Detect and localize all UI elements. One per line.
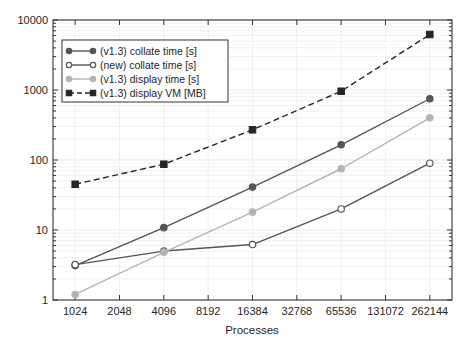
chart-legend: (v1.3) collate time [s](new) collate tim…: [62, 40, 228, 102]
legend-label: (v1.3) display time [s]: [100, 73, 199, 85]
data-point-marker: [66, 48, 71, 53]
data-point-marker: [90, 48, 95, 53]
data-point-marker: [338, 88, 344, 94]
x-tick-label: 16384: [237, 305, 268, 317]
data-point-marker: [66, 90, 71, 95]
y-tick-label: 100: [30, 154, 48, 166]
data-point-marker: [249, 184, 255, 190]
y-tick-label: 1: [42, 294, 48, 306]
data-point-marker: [161, 161, 167, 167]
x-tick-label: 1024: [63, 305, 87, 317]
line-chart-svg: 1024204840968192163843276865536131072262…: [0, 0, 471, 346]
data-point-marker: [427, 160, 433, 166]
legend-label: (new) collate time [s]: [100, 59, 196, 71]
data-point-marker: [66, 62, 71, 67]
data-point-marker: [338, 142, 344, 148]
data-point-marker: [90, 90, 95, 95]
data-point-marker: [72, 181, 78, 187]
data-point-marker: [249, 241, 255, 247]
data-point-marker: [66, 76, 71, 81]
legend-label: (v1.3) collate time [s]: [100, 45, 197, 57]
y-tick-label: 10: [36, 224, 48, 236]
x-tick-label: 32768: [282, 305, 313, 317]
x-axis-tick-labels: 1024204840968192163843276865536131072262…: [63, 305, 448, 317]
data-point-marker: [72, 291, 78, 297]
chart-figure: 1024204840968192163843276865536131072262…: [0, 0, 471, 346]
data-point-marker: [90, 76, 95, 81]
data-point-marker: [249, 209, 255, 215]
x-tick-label: 65536: [326, 305, 357, 317]
data-point-marker: [338, 206, 344, 212]
x-axis-title: Processes: [225, 324, 279, 336]
data-point-marker: [161, 249, 167, 255]
data-point-marker: [90, 62, 95, 67]
data-point-marker: [161, 224, 167, 230]
data-point-marker: [249, 127, 255, 133]
data-point-marker: [338, 166, 344, 172]
y-tick-label: 1000: [24, 84, 48, 96]
x-tick-label: 262144: [411, 305, 448, 317]
x-tick-label: 4096: [152, 305, 176, 317]
y-tick-label: 10000: [17, 14, 48, 26]
x-tick-label: 131072: [367, 305, 404, 317]
x-tick-label: 8192: [196, 305, 220, 317]
data-point-marker: [427, 31, 433, 37]
data-point-marker: [427, 96, 433, 102]
data-point-marker: [72, 261, 78, 267]
x-tick-label: 2048: [107, 305, 131, 317]
legend-label: (v1.3) display VM [MB]: [100, 87, 206, 99]
data-point-marker: [427, 115, 433, 121]
